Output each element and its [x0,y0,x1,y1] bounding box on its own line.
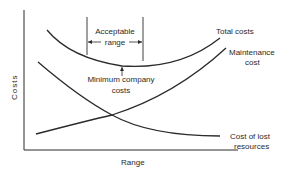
acceptable-range-right-arrowhead-icon [138,40,142,44]
lost-resources-label-line1: Cost of lost [230,132,271,141]
x-axis-label: Range [121,158,145,167]
total-costs-label: Total costs [216,27,254,36]
lost-resources-curve [38,62,220,136]
minimum-cost-arrowhead-icon [120,67,124,71]
lost-resources-label-line2: resources [234,142,269,151]
maintenance-cost-label-line2: cost [245,58,260,67]
y-axis-label: Costs [10,75,19,100]
cost-range-diagram: Costs Range Acceptable range Minimum com… [0,0,290,171]
acceptable-range-label-line1: Acceptable [95,27,135,36]
maintenance-cost-curve [36,48,226,134]
minimum-costs-label-line2: costs [112,86,131,95]
acceptable-range-left-arrowhead-icon [88,40,92,44]
acceptable-range-label-line2: range [105,38,126,47]
maintenance-cost-label-line1: Maintenance [229,48,275,57]
minimum-costs-label-line1: Minimum company [87,75,154,84]
